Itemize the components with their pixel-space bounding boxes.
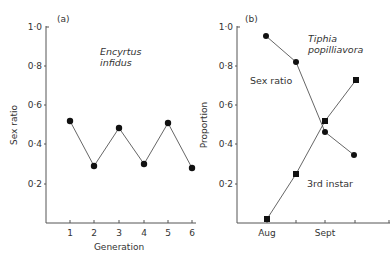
- species-name-b-line2: popilliavora: [307, 44, 364, 55]
- x-tick-label: Sept: [315, 228, 336, 238]
- panel-b: 1·0 0·8 0·6 0·4 0·2 Aug Sept Proportion …: [199, 14, 390, 238]
- data-point: [67, 118, 73, 124]
- species-name-a-line1: Encyrtus: [100, 46, 142, 57]
- data-point: [165, 120, 171, 126]
- x-tick-label: Aug: [258, 228, 276, 238]
- x-tick-label: 6: [189, 228, 195, 238]
- y-axis-label-b: Proportion: [199, 102, 209, 148]
- data-point: [91, 163, 97, 169]
- data-point: [293, 171, 299, 177]
- panel-label-a: (a): [57, 14, 70, 24]
- y-tick-label: 0·6: [219, 100, 234, 110]
- series-line-3rd-instar: [267, 80, 356, 219]
- x-tick-label: 4: [141, 228, 147, 238]
- species-name-a-line2: infidus: [100, 57, 132, 68]
- data-point: [189, 165, 195, 171]
- y-axis-label-a: Sex ratio: [9, 104, 19, 145]
- y-tick-label: 0·2: [219, 179, 233, 189]
- x-tick-label: 3: [116, 228, 122, 238]
- x-tick-label: 2: [91, 228, 97, 238]
- y-tick-label: 0·8: [219, 61, 234, 71]
- y-tick-label: 1·0: [28, 22, 43, 32]
- data-point: [351, 152, 357, 158]
- y-tick-label: 0·2: [28, 179, 42, 189]
- figure: 1·0 0·8 0·6 0·4 0·2 1 2 3 4 5 6 Generati…: [0, 0, 392, 258]
- y-tick-label: 1·0: [219, 22, 234, 32]
- data-point: [264, 216, 270, 222]
- data-point: [263, 33, 269, 39]
- data-point: [116, 125, 122, 131]
- data-point: [322, 118, 328, 124]
- data-point: [293, 59, 299, 65]
- annotation-3rd-instar: 3rd instar: [307, 178, 353, 189]
- x-tick-label: 5: [165, 228, 171, 238]
- data-point: [322, 129, 328, 135]
- y-tick-label: 0·4: [219, 139, 234, 149]
- x-tick-label: 1: [67, 228, 73, 238]
- y-tick-label: 0·4: [28, 139, 43, 149]
- species-name-b-line1: Tiphia: [308, 33, 337, 44]
- series-line-sex-ratio-a: [70, 121, 192, 168]
- panel-label-b: (b): [245, 14, 258, 24]
- data-point: [141, 161, 147, 167]
- data-point: [353, 77, 359, 83]
- x-axis-label-a: Generation: [94, 242, 144, 252]
- y-tick-label: 0·8: [28, 61, 43, 71]
- panel-a: 1·0 0·8 0·6 0·4 0·2 1 2 3 4 5 6 Generati…: [9, 14, 196, 252]
- annotation-sex-ratio: Sex ratio: [250, 75, 292, 86]
- y-tick-label: 0·6: [28, 100, 43, 110]
